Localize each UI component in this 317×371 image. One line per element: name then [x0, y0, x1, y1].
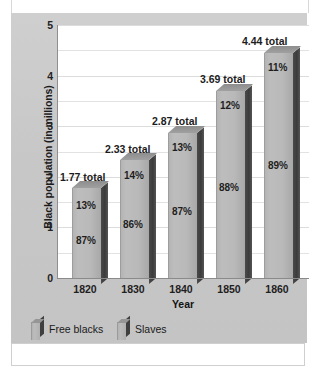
bottom-white-strip	[11, 343, 305, 366]
x-tick-1830: 1830	[109, 283, 157, 295]
bar-1820-side	[101, 183, 108, 284]
x-tick-1840: 1840	[157, 283, 205, 295]
y-tick-5: 5	[23, 20, 53, 31]
legend-swatch-icon-free-blacks	[31, 319, 40, 340]
bar-1850-side	[245, 85, 252, 284]
chart-figure: Black population (in millions) 5 4 3 2 1…	[0, 0, 317, 371]
bar-1860-total-label: 4.44 total	[242, 35, 288, 47]
y-tick-2: 2	[23, 172, 53, 183]
y-axis-line	[57, 25, 58, 279]
x-axis-title: Year	[57, 298, 309, 310]
bar-1830-total-label: 2.33 total	[105, 143, 151, 155]
gridline-5.0	[57, 25, 309, 26]
bar-1850-total-label: 3.69 total	[200, 73, 246, 85]
bar-1850-free-pct: 12%	[220, 100, 240, 111]
caption-strip	[11, 0, 309, 13]
bar-1820-free-pct: 13%	[76, 200, 96, 211]
bar-1830-slave-pct: 86%	[123, 219, 143, 230]
bar-1840[interactable]: 13% 87%	[168, 133, 197, 278]
bar-1820-total-label: 1.77 total	[60, 171, 106, 183]
legend-label-slaves: Slaves	[135, 323, 167, 335]
chart-panel: Black population (in millions) 5 4 3 2 1…	[11, 13, 307, 343]
bar-1830[interactable]: 14% 86%	[120, 160, 149, 278]
legend-swatch-icon-slaves	[117, 319, 126, 340]
y-tick-1: 1	[23, 222, 53, 233]
x-tick-1850: 1850	[205, 283, 253, 295]
bar-1840-total-label: 2.87 total	[152, 115, 198, 127]
bar-1860[interactable]: 11% 89%	[264, 53, 293, 278]
bar-1840-free-pct: 13%	[172, 142, 192, 153]
bar-1820-slave-pct: 87%	[76, 235, 96, 246]
bar-1830-free-pct: 14%	[124, 170, 144, 181]
plot-area: 13% 87% 1.77 total 14% 86% 2.33 total 13…	[57, 25, 309, 278]
bar-1860-slave-pct: 89%	[268, 160, 288, 171]
bar-1850-slave-pct: 88%	[219, 182, 239, 193]
y-axis-tick-labels: 5 4 3 2 1 0	[19, 13, 53, 343]
bar-1840-side	[197, 127, 204, 284]
x-axis-line	[57, 278, 309, 279]
x-tick-1860: 1860	[253, 283, 301, 295]
bar-1860-free-pct: 11%	[268, 62, 287, 73]
y-tick-4: 4	[23, 71, 53, 82]
x-tick-1820: 1820	[61, 283, 109, 295]
bar-1840-slave-pct: 87%	[172, 206, 192, 217]
bar-1850[interactable]: 12% 88%	[216, 91, 245, 278]
bar-1830-side	[149, 154, 156, 284]
bar-1860-side	[293, 48, 300, 284]
legend-label-free-blacks: Free blacks	[49, 323, 103, 335]
y-tick-0: 0	[23, 273, 53, 284]
y-tick-3: 3	[23, 121, 53, 132]
bar-1820[interactable]: 13% 87%	[72, 188, 101, 278]
